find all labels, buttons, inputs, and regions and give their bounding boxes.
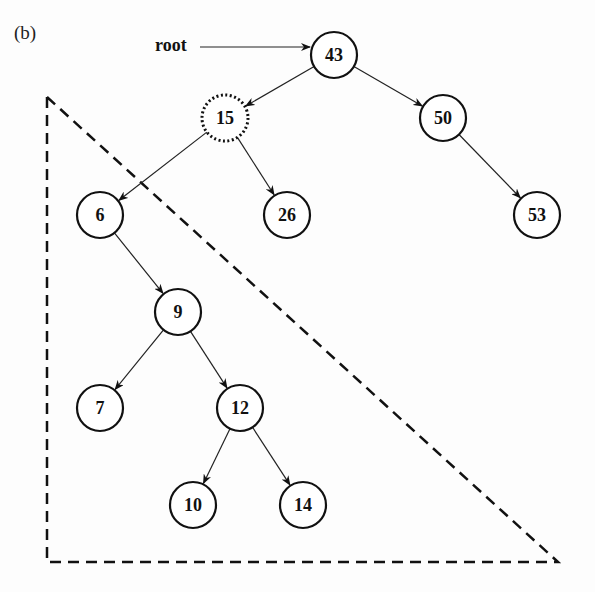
tree-node-7: 7 (77, 385, 123, 431)
edge-9-12 (190, 331, 227, 388)
tree-node-43: 43 (311, 32, 357, 78)
svg-text:10: 10 (184, 495, 202, 515)
tree-node-15: 15 (202, 95, 248, 141)
svg-text:26: 26 (278, 205, 296, 225)
svg-text:12: 12 (231, 398, 249, 418)
svg-text:15: 15 (216, 108, 234, 128)
edge-43-50 (354, 67, 422, 106)
svg-text:43: 43 (325, 45, 343, 65)
tree-node-26: 26 (264, 192, 310, 238)
edge-15-6 (119, 132, 207, 200)
edge-43-15 (246, 67, 314, 106)
tree-node-50: 50 (420, 95, 466, 141)
edge-12-10 (203, 429, 230, 484)
edge-12-14 (253, 427, 290, 485)
nodes: 4315506265397121014 (77, 32, 560, 528)
edge-9-7 (115, 330, 163, 390)
tree-node-53: 53 (514, 192, 560, 238)
svg-text:50: 50 (434, 108, 452, 128)
tree-node-10: 10 (170, 482, 216, 528)
svg-text:14: 14 (294, 495, 312, 515)
bst-diagram: 4315506265397121014 (0, 0, 595, 592)
svg-text:7: 7 (96, 398, 105, 418)
edge-50-53 (459, 135, 520, 198)
tree-node-6: 6 (77, 192, 123, 238)
tree-node-9: 9 (155, 289, 201, 335)
edge-15-26 (237, 137, 274, 194)
tree-node-14: 14 (280, 482, 326, 528)
edge-6-9 (114, 233, 163, 293)
svg-text:53: 53 (528, 205, 546, 225)
svg-text:9: 9 (174, 302, 183, 322)
tree-node-12: 12 (217, 385, 263, 431)
svg-text:6: 6 (96, 205, 105, 225)
